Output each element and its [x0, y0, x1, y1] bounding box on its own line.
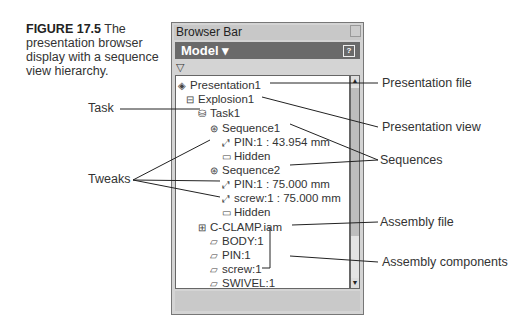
figure: FIGURE 17.5 The presentation browser dis…: [0, 0, 526, 325]
leader-lines: [0, 0, 526, 325]
